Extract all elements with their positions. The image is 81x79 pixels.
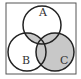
label-c: C: [60, 54, 68, 67]
venn-diagram: A B C: [0, 0, 81, 79]
label-b: B: [22, 54, 30, 67]
label-a: A: [38, 6, 48, 19]
